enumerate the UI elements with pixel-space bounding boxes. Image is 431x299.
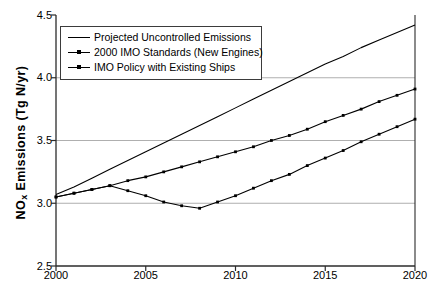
data-point: [414, 88, 417, 91]
data-point: [360, 140, 363, 143]
data-point: [108, 184, 111, 187]
data-point: [126, 189, 129, 192]
data-point: [162, 201, 165, 204]
data-point: [342, 149, 345, 152]
data-point: [396, 94, 399, 97]
legend-line-swatch-icon: [68, 32, 90, 43]
data-point: [126, 179, 129, 182]
legend-label: 2000 IMO Standards (New Engines): [94, 47, 263, 58]
legend-label: IMO Policy with Existing Ships: [94, 62, 235, 73]
chart-figure: NOx Emissions (Tg N/yr) 2.53.03.54.04.5 …: [0, 0, 431, 299]
data-point: [324, 157, 327, 160]
legend-label: Projected Uncontrolled Emissions: [94, 32, 251, 43]
data-point: [342, 114, 345, 117]
data-point: [162, 170, 165, 173]
data-point: [270, 139, 273, 142]
data-point: [234, 150, 237, 153]
data-point: [270, 179, 273, 182]
legend-line-marker-swatch-icon: [68, 47, 90, 58]
data-point: [216, 155, 219, 158]
data-point: [73, 192, 76, 195]
data-point: [252, 187, 255, 190]
data-point: [378, 133, 381, 136]
data-point: [306, 164, 309, 167]
legend-item-imo-standards: 2000 IMO Standards (New Engines): [61, 45, 261, 60]
data-point: [288, 173, 291, 176]
data-point: [91, 188, 94, 191]
data-point: [378, 100, 381, 103]
data-point: [180, 165, 183, 168]
data-point: [144, 175, 147, 178]
data-point: [414, 118, 417, 121]
data-point: [216, 201, 219, 204]
data-point: [288, 134, 291, 137]
data-point: [306, 128, 309, 131]
data-point: [144, 194, 147, 197]
data-point: [360, 108, 363, 111]
legend: Projected Uncontrolled Emissions 2000 IM…: [60, 26, 262, 80]
legend-item-projected-uncontrolled: Projected Uncontrolled Emissions: [61, 30, 261, 45]
data-point: [198, 160, 201, 163]
data-point: [198, 207, 201, 210]
data-point: [55, 196, 58, 199]
data-point: [252, 145, 255, 148]
data-point: [180, 204, 183, 207]
data-point: [396, 125, 399, 128]
legend-item-imo-policy-existing-ships: IMO Policy with Existing Ships: [61, 60, 261, 75]
legend-line-marker-swatch-icon: [68, 62, 90, 73]
data-point: [234, 194, 237, 197]
data-point: [324, 120, 327, 123]
